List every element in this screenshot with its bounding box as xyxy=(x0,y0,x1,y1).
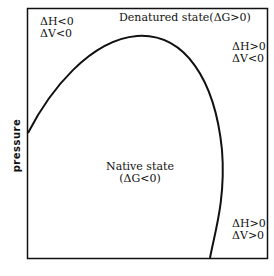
delta-v-label: ΔV<0 xyxy=(40,28,74,40)
delta-v-label: ΔV<0 xyxy=(232,53,266,65)
native-state-label: Native state (ΔG<0) xyxy=(106,161,174,185)
phase-boundary-curve xyxy=(28,36,223,258)
delta-v-label: ΔV>0 xyxy=(232,230,266,242)
annotation-bottom-right: ΔH>0 ΔV>0 xyxy=(232,218,266,242)
y-axis-label: pressure xyxy=(11,119,22,173)
annotation-top-left: ΔH<0 ΔV<0 xyxy=(40,16,74,40)
native-state-condition: (ΔG<0) xyxy=(106,173,174,185)
denatured-state-label: Denatured state(ΔG>0) xyxy=(119,12,251,24)
annotation-top-right: ΔH>0 ΔV<0 xyxy=(232,41,266,65)
